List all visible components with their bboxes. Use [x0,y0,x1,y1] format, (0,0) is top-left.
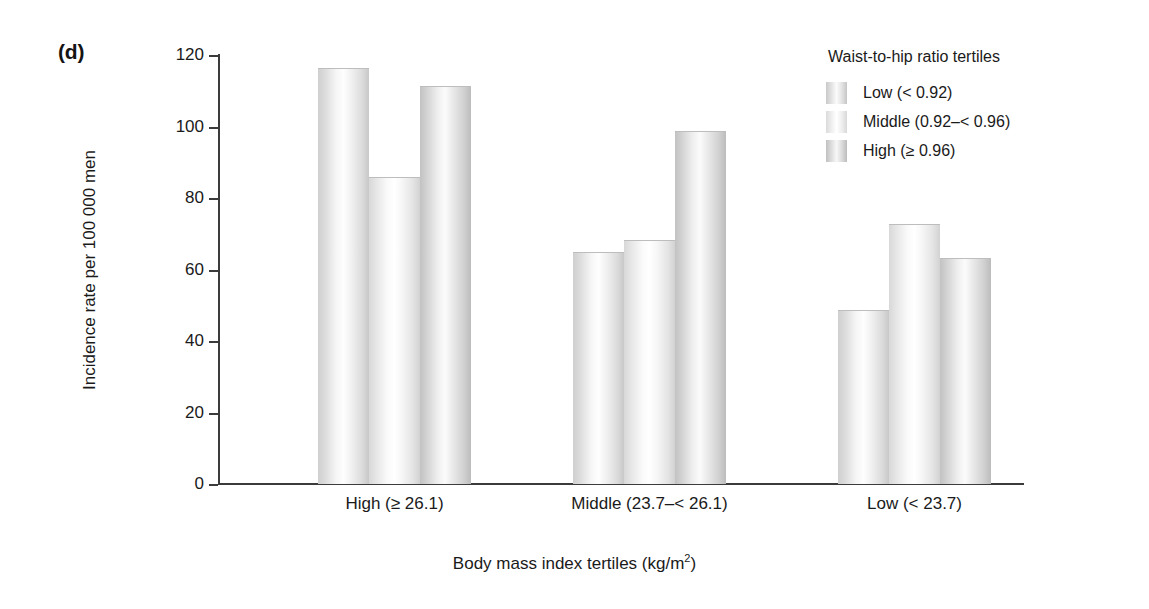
legend-swatch-middle-icon [826,111,847,133]
x-axis-title-tail: ) [690,554,696,573]
x-axis-group-label: High (≥ 26.1) [345,494,443,514]
y-axis-tick-mark [209,341,218,343]
y-axis-tick-label: 0 [195,474,204,494]
y-axis-tick-label: 40 [185,331,204,351]
bar [318,68,369,484]
y-axis-tick-label: 20 [185,403,204,423]
y-axis-tick-mark [209,55,218,57]
legend-swatch-high-icon [826,140,847,162]
y-axis-tick-label: 80 [185,188,204,208]
y-axis-tick-mark [209,198,218,200]
bar [573,252,624,484]
legend-label-high: High (≥ 0.96) [863,142,955,160]
legend: Waist-to-hip ratio tertiles Low (< 0.92)… [826,48,1126,165]
x-axis-group-label: Middle (23.7–< 26.1) [571,494,727,514]
x-axis-title-main: Body mass index tertiles (kg/m [453,554,684,573]
y-axis-tick-mark [209,413,218,415]
bar [889,224,940,484]
bar [675,131,726,484]
bar [838,310,889,484]
y-axis-title: Incidence rate per 100 000 men [80,120,100,420]
legend-item-middle: Middle (0.92–< 0.96) [826,107,1126,136]
legend-item-high: High (≥ 0.96) [826,136,1126,165]
y-axis-tick-mark [209,127,218,129]
legend-label-middle: Middle (0.92–< 0.96) [863,113,1010,131]
legend-item-low: Low (< 0.92) [826,78,1126,107]
y-axis-tick-label: 100 [176,117,204,137]
bar [624,240,675,484]
y-axis-tick-label: 60 [185,260,204,280]
x-axis-title: Body mass index tertiles (kg/m2) [0,552,1149,574]
figure-panel-d: (d) Incidence rate per 100 000 men 02040… [0,0,1149,609]
bar [369,177,420,484]
x-axis-group-label: Low (< 23.7) [867,494,962,514]
y-axis-tick-label: 120 [176,45,204,65]
bar [940,258,991,484]
bar [420,86,471,484]
legend-title: Waist-to-hip ratio tertiles [828,48,1126,66]
legend-swatch-low-icon [826,82,847,104]
legend-label-low: Low (< 0.92) [863,84,952,102]
y-axis-tick-mark [209,484,218,486]
panel-label: (d) [58,40,84,64]
y-axis-tick-mark [209,270,218,272]
